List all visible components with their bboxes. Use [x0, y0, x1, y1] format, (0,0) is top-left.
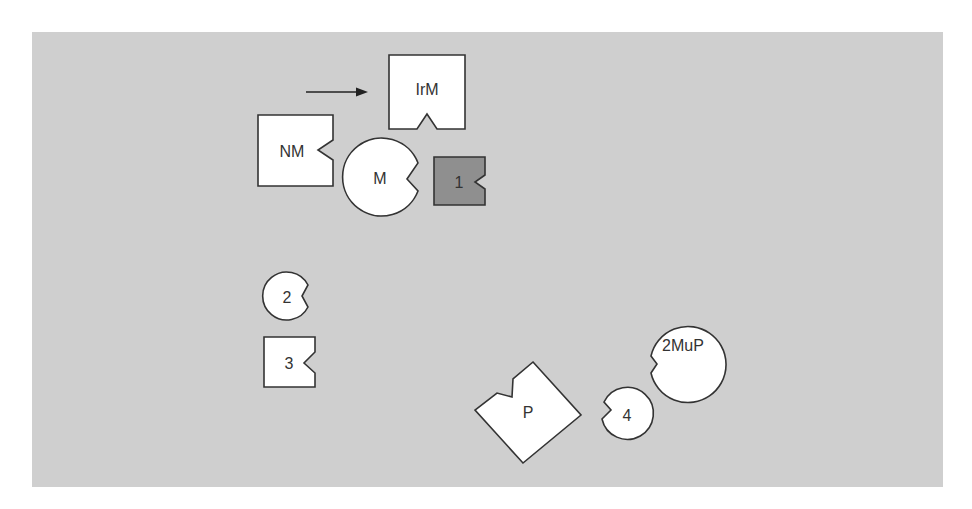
- diagram-canvas: IrM NM M 1 2 3 P 4 2MuP: [0, 0, 972, 509]
- shape-2-label: 2: [283, 289, 292, 306]
- shape-2: 2: [263, 272, 308, 320]
- shape-irm: IrM: [389, 55, 465, 129]
- shape-nm: NM: [258, 115, 333, 186]
- shape-m: M: [343, 138, 418, 216]
- shape-p: P: [475, 362, 581, 463]
- shape-2mup: 2MuP: [651, 327, 726, 403]
- shape-1: 1: [434, 157, 485, 205]
- shape-p-label: P: [523, 404, 534, 421]
- shape-3: 3: [264, 337, 315, 387]
- shape-m-label: M: [373, 170, 386, 187]
- shape-1-label: 1: [455, 174, 464, 191]
- shape-4-label: 4: [623, 407, 632, 424]
- shape-nm-label: NM: [280, 143, 305, 160]
- shape-4: 4: [602, 387, 653, 439]
- arrow-right-icon: [306, 88, 368, 97]
- shape-irm-label: IrM: [415, 81, 438, 98]
- shape-2mup-label: 2MuP: [662, 337, 704, 354]
- shape-3-label: 3: [285, 355, 294, 372]
